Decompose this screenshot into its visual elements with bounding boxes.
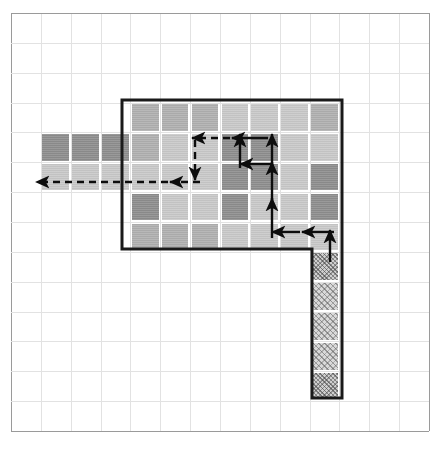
- grid-cell-block-r6-c4: [132, 194, 159, 221]
- figure-canvas: [0, 0, 442, 454]
- grid-cell-left-arm-light-2: [72, 164, 99, 191]
- grid-cell-tail-hatch-r9: [311, 283, 338, 310]
- grid-cell-block-r5-c7: [222, 164, 249, 191]
- grid-cell-tail-hatch-r8: [311, 253, 338, 280]
- grid-cell-block-r3-c7: [222, 104, 249, 131]
- grid-cell-block-r7-c6: [192, 224, 219, 251]
- grid-cell-tail-hatch-r10: [311, 313, 338, 340]
- grid-cell-block-r6-c10: [311, 194, 338, 221]
- grid-cell-block-r6-c7: [222, 194, 249, 221]
- grid-cell-block-r5-c6: [192, 164, 219, 191]
- grid-cell-block-r7-c10: [311, 224, 338, 251]
- grid-cell-left-arm-dark-1: [42, 134, 69, 161]
- shaded-cells-layer: [0, 0, 442, 454]
- grid-cell-block-r3-c6: [192, 104, 219, 131]
- grid-cell-block-r6-c9: [281, 194, 308, 221]
- grid-cell-block-r7-c9: [281, 224, 308, 251]
- grid-cell-tail-hatch-r12: [311, 373, 338, 400]
- grid-cell-left-arm-dark-2: [72, 134, 99, 161]
- grid-cell-block-r7-c7: [222, 224, 249, 251]
- grid-cell-block-r5-c5: [162, 164, 189, 191]
- grid-cell-block-r4-c6: [192, 134, 219, 161]
- grid-cell-block-r3-c8: [251, 104, 278, 131]
- grid-cell-block-r3-c9: [281, 104, 308, 131]
- grid-cell-block-r4-c8: [251, 134, 278, 161]
- grid-cell-block-r6-c6: [192, 194, 219, 221]
- grid-cell-block-r7-c8: [251, 224, 278, 251]
- grid-cell-left-arm-dark-3: [102, 134, 129, 161]
- grid-cell-block-r6-c5: [162, 194, 189, 221]
- grid-cell-tail-hatch-r11: [311, 343, 338, 370]
- grid-cell-block-r4-c7: [222, 134, 249, 161]
- grid-cell-block-r5-c9: [281, 164, 308, 191]
- grid-cell-block-r3-c4: [132, 104, 159, 131]
- grid-cell-block-r3-c10: [311, 104, 338, 131]
- grid-cell-block-r5-c4: [132, 164, 159, 191]
- grid-cell-block-r6-c8: [251, 194, 278, 221]
- grid-cell-left-arm-light-3: [102, 164, 129, 191]
- grid-cell-left-arm-light-1: [42, 164, 69, 191]
- grid-cell-block-r4-c10: [311, 134, 338, 161]
- grid-cell-block-r3-c5: [162, 104, 189, 131]
- grid-cell-block-r7-c4: [132, 224, 159, 251]
- grid-cell-block-r4-c9: [281, 134, 308, 161]
- grid-cell-block-r5-c10: [311, 164, 338, 191]
- grid-cell-block-r4-c4: [132, 134, 159, 161]
- grid-cell-block-r7-c5: [162, 224, 189, 251]
- grid-cell-block-r5-c8: [251, 164, 278, 191]
- grid-cell-block-r4-c5: [162, 134, 189, 161]
